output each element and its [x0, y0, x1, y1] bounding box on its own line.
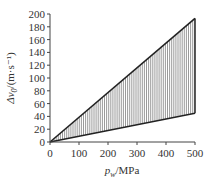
y-tick-label: 20 [34, 123, 46, 135]
x-tick-label: 300 [129, 147, 146, 159]
y-axis-ticks: 020406080100120140160180200 [29, 8, 51, 148]
x-tick-label: 200 [100, 147, 117, 159]
y-axis-label: Δv0/(m·s⁻¹) [4, 52, 19, 105]
x-axis-ticks: 0100200300400500 [47, 142, 204, 159]
y-tick-label: 100 [29, 72, 46, 84]
y-tick-label: 160 [29, 34, 46, 46]
x-tick-label: 500 [187, 147, 204, 159]
y-tick-label: 120 [29, 59, 46, 71]
y-tick-label: 140 [29, 46, 46, 58]
x-tick-label: 400 [158, 147, 175, 159]
y-tick-label: 80 [34, 85, 46, 97]
lower-bound-line [50, 113, 195, 142]
y-tick-label: 200 [29, 8, 46, 20]
upper-bound-line [50, 18, 195, 142]
chart: 020406080100120140160180200 010020030040… [0, 0, 211, 182]
x-axis-label: pw/MPa [104, 164, 140, 179]
y-tick-label: 0 [40, 136, 46, 148]
y-tick-label: 60 [34, 98, 46, 110]
x-tick-label: 100 [71, 147, 88, 159]
y-tick-label: 180 [29, 21, 46, 33]
y-tick-label: 40 [34, 110, 46, 122]
x-tick-label: 0 [47, 147, 53, 159]
